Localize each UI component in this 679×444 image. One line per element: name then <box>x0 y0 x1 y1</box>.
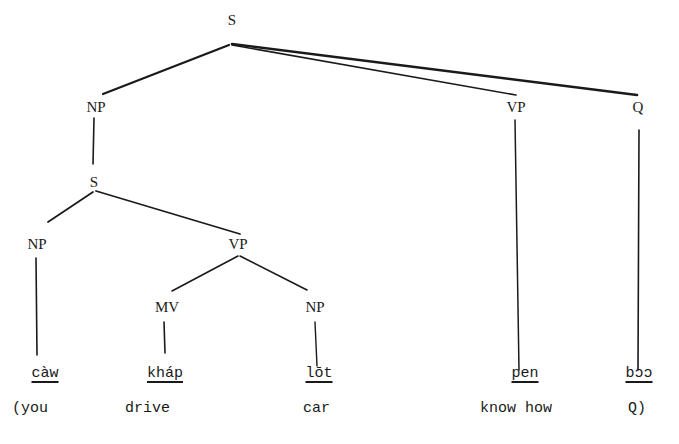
edge-s-root-to-vp-top <box>232 45 516 95</box>
syntax-tree-lines <box>0 0 679 444</box>
word-khap: kháp <box>147 366 183 382</box>
edge-vp-top-to-word-pen <box>515 120 519 370</box>
edge-vp-inner-to-np-obj <box>240 256 307 290</box>
node-mv: MV <box>155 299 179 315</box>
word-boo: bɔɔ <box>625 366 652 382</box>
edge-np-obj-to-word-lot <box>315 322 317 366</box>
node-s-embedded: S <box>90 174 98 190</box>
edge-s-root-to-np-top <box>103 45 229 94</box>
edge-vp-inner-to-mv <box>172 256 238 291</box>
node-vp-top: VP <box>506 99 525 115</box>
node-np-top: NP <box>86 99 105 115</box>
node-np-subject: NP <box>27 236 46 252</box>
edge-q-to-word-boo <box>638 130 639 370</box>
word-lot: lōt <box>305 366 332 382</box>
word-caw: càw <box>31 366 58 382</box>
node-s-root: S <box>228 12 236 28</box>
edge-s-embedded-to-np-subj <box>48 192 93 222</box>
word-pen: pen <box>511 366 538 382</box>
edge-mv-to-word-khap <box>164 322 165 353</box>
edge-s-root-to-q <box>232 44 637 95</box>
gloss-car: car <box>303 401 330 417</box>
gloss-question: Q) <box>628 401 646 417</box>
gloss-know-how: know how <box>480 401 552 417</box>
node-q: Q <box>633 99 644 115</box>
node-np-object: NP <box>305 299 324 315</box>
gloss-you: (you <box>12 401 48 417</box>
gloss-drive: drive <box>125 401 170 417</box>
node-vp-inner: VP <box>228 236 247 252</box>
edge-np-subj-to-word-caw <box>36 258 37 355</box>
edge-s-embedded-to-vp-inner <box>96 191 240 234</box>
edge-np-top-to-s-embedded <box>93 118 94 164</box>
